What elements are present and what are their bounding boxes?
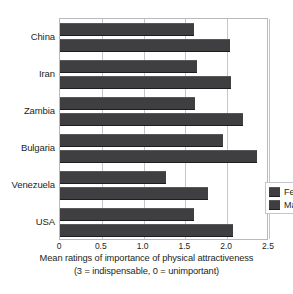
plot-area: Females Males <box>59 18 268 240</box>
bar-bulgaria-males <box>60 150 257 163</box>
bar-venezuela-males <box>60 187 208 200</box>
bar-usa-females <box>60 208 194 221</box>
legend-item-females: Females <box>269 185 293 198</box>
y-axis-label-china: China <box>1 32 55 42</box>
y-axis-label-bulgaria: Bulgaria <box>1 143 55 153</box>
bar-group-venezuela <box>60 170 267 207</box>
legend-label-females: Females <box>284 187 293 197</box>
legend-item-males: Males <box>269 198 293 211</box>
x-tick-1.5: 1.5 <box>178 241 190 252</box>
y-axis-label-usa: USA <box>1 217 55 227</box>
x-tick-0.5: 0.5 <box>95 241 107 252</box>
y-axis-label-venezuela: Venezuela <box>1 180 55 190</box>
legend-label-males: Males <box>284 200 293 210</box>
bar-group-iran <box>60 59 267 96</box>
x-tick-0: 0 <box>57 241 62 252</box>
chart-figure: ChinaIranZambiaBulgariaVenezuelaUSA Fema… <box>0 0 293 294</box>
legend-swatch-males-icon <box>269 200 280 210</box>
x-tick-2.0: 2.0 <box>220 241 232 252</box>
bar-iran-females <box>60 60 197 73</box>
y-axis-label-iran: Iran <box>1 69 55 79</box>
bar-china-males <box>60 39 230 52</box>
bar-zambia-females <box>60 97 195 110</box>
y-axis-category-labels: ChinaIranZambiaBulgariaVenezuelaUSA <box>0 18 55 240</box>
bar-group-bulgaria <box>60 133 267 170</box>
bar-group-zambia <box>60 96 267 133</box>
legend-swatch-females-icon <box>269 187 280 197</box>
bar-china-females <box>60 23 194 36</box>
bar-zambia-males <box>60 113 243 126</box>
bar-group-usa <box>60 207 267 244</box>
y-axis-label-zambia: Zambia <box>1 106 55 116</box>
bar-group-china <box>60 22 267 59</box>
bar-bulgaria-females <box>60 134 223 147</box>
x-axis-subtitle: (3 = indispensable, 0 = unimportant) <box>0 265 293 277</box>
x-axis-title: Mean ratings of importance of physical a… <box>0 252 293 264</box>
bar-iran-males <box>60 76 231 89</box>
bar-venezuela-females <box>60 171 166 184</box>
bar-usa-males <box>60 224 233 237</box>
x-tick-2.5: 2.5 <box>262 241 274 252</box>
chart-legend: Females Males <box>265 182 293 214</box>
x-tick-1.0: 1.0 <box>137 241 149 252</box>
